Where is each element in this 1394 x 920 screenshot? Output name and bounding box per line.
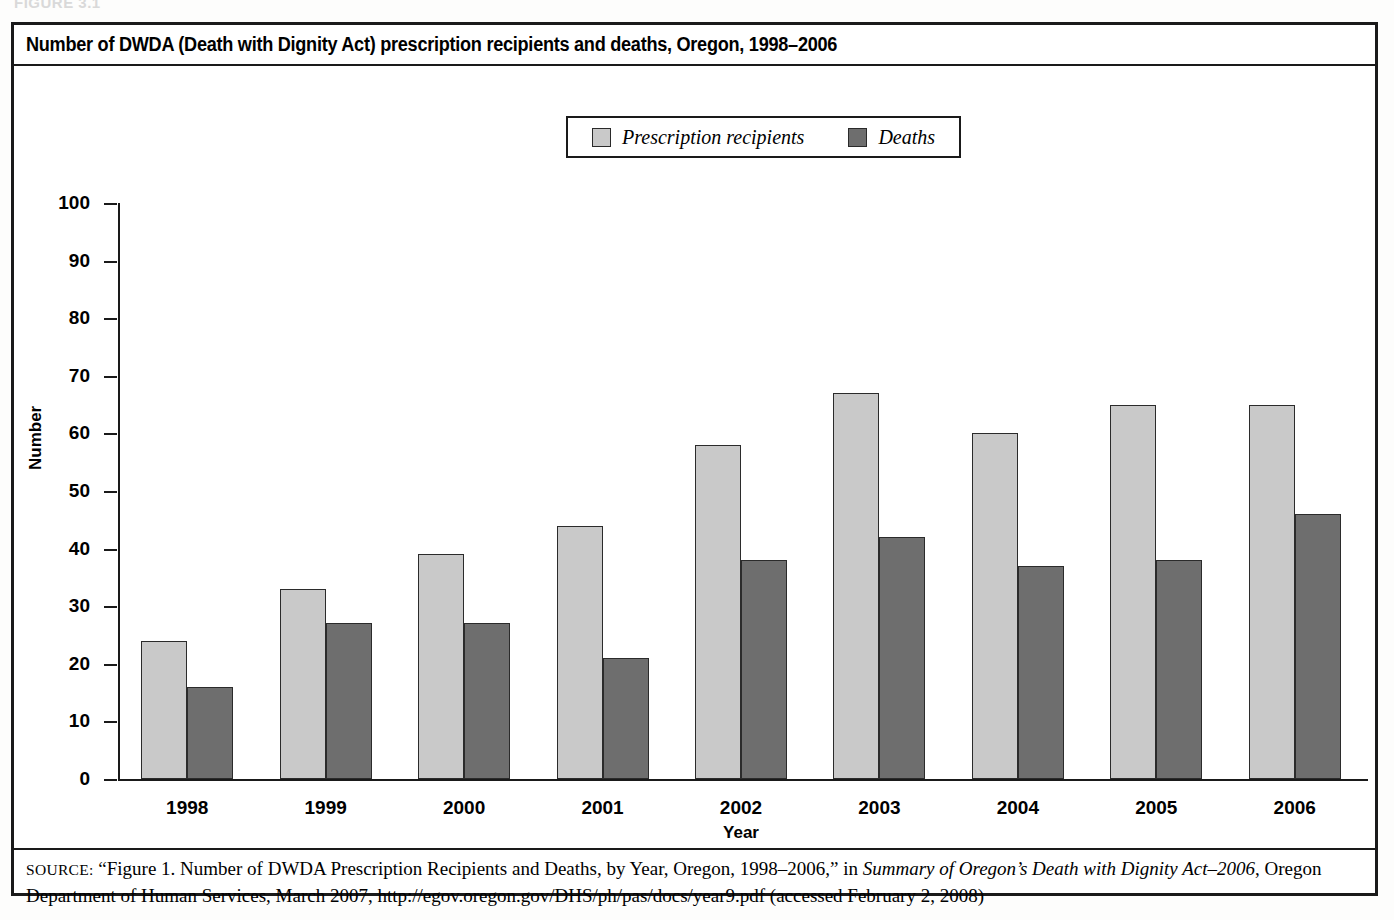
figure-page: FIGURE 3.1 Number of DWDA (Death with Di…	[0, 0, 1394, 920]
x-axis-tick-label: 2006	[1226, 797, 1364, 819]
y-axis-tick-label: 30	[30, 595, 90, 617]
bar-deaths-2004	[1018, 566, 1064, 779]
x-axis-tick-cell: 1999	[256, 781, 394, 821]
y-axis-tick-label: 10	[30, 710, 90, 732]
x-axis-tick-cell: 2006	[1226, 781, 1364, 821]
bar-deaths-2003	[879, 537, 925, 779]
bar-deaths-2005	[1156, 560, 1202, 779]
x-axis-tick-cell: 2005	[1087, 781, 1225, 821]
bar-prescription-recipients-2005	[1110, 405, 1156, 779]
bar-prescription-recipients-2004	[972, 433, 1018, 779]
bar-groups	[118, 203, 1364, 779]
y-axis-tick-label: 100	[30, 192, 90, 214]
x-axis-tick-cell: 1998	[118, 781, 256, 821]
y-axis-tick-label: 60	[30, 422, 90, 444]
bar-prescription-recipients-2002	[695, 445, 741, 779]
bar-group	[1226, 203, 1364, 779]
x-axis-tick-label: 2002	[672, 797, 810, 819]
y-axis-tick-label: 80	[30, 307, 90, 329]
legend-item-prescription-recipients: Prescription recipients	[592, 126, 804, 149]
source-publication-title: Summary of Oregon’s Death with Dignity A…	[863, 858, 1255, 879]
bar-group	[810, 203, 948, 779]
y-axis-tick	[104, 549, 117, 551]
y-axis-tick	[104, 318, 117, 320]
x-axis-tick-label: 1998	[118, 797, 256, 819]
y-axis-tick-label: 50	[30, 480, 90, 502]
bar-deaths-1999	[326, 623, 372, 779]
bar-deaths-2000	[464, 623, 510, 779]
bar-deaths-2006	[1295, 514, 1341, 779]
bar-prescription-recipients-2003	[833, 393, 879, 779]
bar-group	[949, 203, 1087, 779]
y-axis-tick	[104, 261, 117, 263]
y-axis-tick	[104, 376, 117, 378]
x-axis-tick-cell: 2000	[395, 781, 533, 821]
x-axis-tick-cell: 2004	[949, 781, 1087, 821]
bar-group	[118, 203, 256, 779]
y-axis-tick-label: 90	[30, 250, 90, 272]
x-axis-tick-label: 2004	[949, 797, 1087, 819]
x-axis-tick-cell: 2001	[533, 781, 671, 821]
x-axis-title: Year	[118, 823, 1364, 843]
x-axis-tick-label: 2003	[810, 797, 948, 819]
legend-swatch-icon-deaths	[848, 128, 867, 147]
legend-label-prescription-recipients: Prescription recipients	[622, 126, 804, 149]
y-axis-tick	[104, 721, 117, 723]
page-bleed-text: FIGURE 3.1	[14, 0, 214, 10]
x-axis-tick-label: 2005	[1087, 797, 1225, 819]
x-axis-tick-cell: 2002	[672, 781, 810, 821]
bar-prescription-recipients-2000	[418, 554, 464, 779]
bar-prescription-recipients-1998	[141, 641, 187, 779]
bar-group	[395, 203, 533, 779]
source-label: SOURCE:	[26, 861, 94, 878]
x-axis-tick-label: 1999	[256, 797, 394, 819]
y-axis-tick-label: 70	[30, 365, 90, 387]
x-axis-tick-label: 2000	[395, 797, 533, 819]
source-note: SOURCE: “Figure 1. Number of DWDA Prescr…	[26, 856, 1366, 910]
x-axis-tick-labels: 199819992000200120022003200420052006	[118, 781, 1364, 821]
bar-deaths-1998	[187, 687, 233, 779]
y-axis-tick-label: 40	[30, 538, 90, 560]
y-axis-tick-label: 0	[30, 768, 90, 790]
source-divider	[14, 848, 1375, 850]
y-axis-tick	[104, 606, 117, 608]
figure-title: Number of DWDA (Death with Dignity Act) …	[26, 33, 1254, 56]
y-axis-tick	[104, 779, 117, 781]
x-axis-tick-cell: 2003	[810, 781, 948, 821]
y-axis-tick	[104, 433, 117, 435]
y-axis-tick-label: 20	[30, 653, 90, 675]
y-axis-tick	[104, 491, 117, 493]
y-axis-tick	[104, 203, 117, 205]
legend-item-deaths: Deaths	[848, 126, 935, 149]
x-axis-tick-label: 2001	[533, 797, 671, 819]
title-divider	[14, 64, 1375, 66]
legend-label-deaths: Deaths	[878, 126, 935, 149]
bar-prescription-recipients-2006	[1249, 405, 1295, 779]
bar-group	[672, 203, 810, 779]
plot-area: 1009080706050403020100	[118, 203, 1364, 779]
chart-legend: Prescription recipients Deaths	[566, 116, 961, 158]
bar-deaths-2002	[741, 560, 787, 779]
bar-deaths-2001	[603, 658, 649, 779]
bar-prescription-recipients-1999	[280, 589, 326, 779]
bar-prescription-recipients-2001	[557, 526, 603, 779]
bar-group	[533, 203, 671, 779]
source-text-part1: “Figure 1. Number of DWDA Prescription R…	[94, 858, 863, 879]
y-axis-tick	[104, 664, 117, 666]
legend-swatch-icon-prescription-recipients	[592, 128, 611, 147]
bar-group	[256, 203, 394, 779]
bar-group	[1087, 203, 1225, 779]
